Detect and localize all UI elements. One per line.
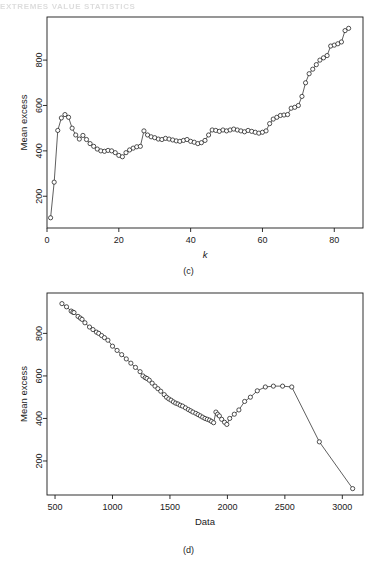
data-point-marker	[296, 103, 300, 107]
x-axis-tick-label: 2500	[275, 502, 295, 512]
data-point-marker	[248, 395, 252, 399]
x-axis-tick-label: 0	[44, 235, 49, 245]
data-point-marker	[280, 384, 284, 388]
y-axis-tick-label: 600	[34, 98, 44, 113]
data-point-marker	[263, 385, 267, 389]
data-point-marker	[268, 122, 272, 126]
data-point-marker	[64, 305, 68, 309]
data-point-marker	[339, 40, 343, 44]
data-point-marker	[159, 389, 163, 393]
plot-frame	[47, 293, 363, 495]
data-point-marker	[237, 408, 241, 412]
data-point-marker	[225, 422, 229, 426]
data-point-marker	[52, 180, 56, 184]
x-axis-tick-label: 60	[257, 235, 267, 245]
x-axis-tick-label: 2000	[217, 502, 237, 512]
data-point-marker	[228, 416, 232, 420]
data-point-marker	[77, 137, 81, 141]
y-axis-tick-label: 200	[34, 189, 44, 204]
x-axis-tick-label: 80	[329, 235, 339, 245]
data-point-marker	[81, 133, 85, 137]
data-point-marker	[110, 344, 114, 348]
data-point-marker	[56, 128, 60, 132]
data-point-marker	[133, 365, 137, 369]
x-axis-tick-label: 1000	[102, 502, 122, 512]
data-point-marker	[66, 115, 70, 119]
data-point-marker	[124, 357, 128, 361]
y-axis-label: Mean excess	[18, 366, 29, 422]
x-axis-tick-label: 3000	[332, 502, 352, 512]
data-point-marker	[243, 399, 247, 403]
data-point-marker	[138, 370, 142, 374]
mean-excess-vs-k-chart: 200400600800020406080Mean excessk	[0, 10, 377, 285]
plot-frame	[47, 17, 363, 228]
data-point-marker	[115, 348, 119, 352]
data-point-marker	[271, 384, 275, 388]
data-point-marker	[314, 63, 318, 67]
x-axis-tick-label: 500	[48, 502, 63, 512]
x-axis-label: Data	[195, 516, 216, 527]
data-point-marker	[206, 133, 210, 137]
data-point-marker	[285, 112, 289, 116]
data-point-marker	[325, 53, 329, 57]
data-series-line	[51, 28, 349, 217]
data-point-marker	[290, 385, 294, 389]
data-point-marker	[255, 389, 259, 393]
data-point-marker	[264, 129, 268, 133]
figure-panel-d: 20040060080050010001500200025003000Mean …	[0, 286, 377, 563]
x-axis-tick-label: 1500	[160, 502, 180, 512]
data-point-marker	[138, 144, 142, 148]
data-point-marker	[59, 116, 63, 120]
data-point-marker	[311, 67, 315, 71]
data-point-marker	[203, 138, 207, 142]
data-point-marker	[48, 216, 52, 220]
data-point-marker	[212, 421, 216, 425]
data-series-line	[62, 304, 353, 489]
x-axis-label: k	[203, 249, 209, 260]
mean-excess-vs-data-chart: 20040060080050010001500200025003000Mean …	[0, 286, 377, 546]
y-axis-tick-label: 800	[34, 53, 44, 68]
data-point-marker	[142, 129, 146, 133]
x-axis-tick-label: 40	[186, 235, 196, 245]
x-axis-tick-label: 20	[114, 235, 124, 245]
data-point-marker	[84, 137, 88, 141]
data-point-marker	[129, 361, 133, 365]
y-axis-tick-label: 200	[34, 453, 44, 468]
data-point-marker	[303, 81, 307, 85]
figure-caption-d: (d)	[0, 545, 377, 555]
data-point-marker	[232, 412, 236, 416]
y-axis-tick-label: 600	[34, 368, 44, 383]
data-point-marker	[307, 72, 311, 76]
data-point-marker	[83, 321, 87, 325]
data-point-marker	[120, 155, 124, 159]
data-point-marker	[74, 133, 78, 137]
data-point-marker	[120, 353, 124, 357]
data-point-marker	[60, 302, 64, 306]
figure-panel-c: 200400600800020406080Mean excessk	[0, 10, 377, 285]
y-axis-tick-label: 800	[34, 326, 44, 341]
y-axis-tick-label: 400	[34, 411, 44, 426]
data-point-marker	[70, 126, 74, 130]
data-point-marker	[317, 440, 321, 444]
data-point-marker	[106, 338, 110, 342]
y-axis-label: Mean excess	[18, 94, 29, 150]
data-point-marker	[351, 487, 355, 491]
data-point-marker	[300, 94, 304, 98]
data-point-marker	[72, 310, 76, 314]
figure-caption-c: (c)	[0, 266, 377, 276]
y-axis-tick-label: 400	[34, 143, 44, 158]
data-point-marker	[347, 26, 351, 30]
